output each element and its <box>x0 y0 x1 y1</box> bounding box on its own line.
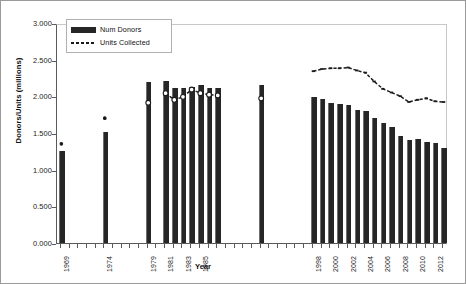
legend-item-num-donors: Num Donors <box>71 23 167 36</box>
y-tick-mark-1.000 <box>52 171 56 172</box>
x-tick-mark-1982 <box>173 244 174 248</box>
bars-layer <box>57 25 446 243</box>
x-tick-label-1981: 1981 <box>167 256 174 272</box>
x-tick-mark-1985 <box>199 244 200 248</box>
bar-1983 <box>181 88 187 243</box>
bar-1984 <box>189 87 195 243</box>
x-tick-label-1979: 1979 <box>150 256 157 272</box>
x-tick-label-2008: 2008 <box>402 256 409 272</box>
x-tick-mark-1998 <box>312 244 313 248</box>
x-tick-mark-2010 <box>416 244 417 248</box>
x-tick-label-2010: 2010 <box>419 256 426 272</box>
legend-label-num-donors: Num Donors <box>100 25 141 34</box>
x-tick-mark-2006 <box>381 244 382 248</box>
bar-1987 <box>215 88 221 243</box>
bar-1982 <box>172 88 178 243</box>
legend-bar-swatch-icon <box>71 27 96 33</box>
y-tick-label-3.000: 3.000 <box>8 20 52 28</box>
bar-1974 <box>103 132 109 243</box>
x-tick-mark-2008 <box>399 244 400 248</box>
bar-2000 <box>328 103 334 243</box>
bar-2004 <box>363 111 369 243</box>
x-tick-label-2000: 2000 <box>332 256 339 272</box>
y-tick-mark-0.500 <box>52 207 56 208</box>
x-tick-label-1974: 1974 <box>106 256 113 272</box>
x-tick-mark-1989 <box>234 244 235 248</box>
x-tick-label-1983: 1983 <box>185 256 192 272</box>
x-tick-mark-2009 <box>407 244 408 248</box>
bar-1998 <box>311 97 317 243</box>
bar-2007 <box>389 127 395 243</box>
x-tick-mark-2005 <box>373 244 374 248</box>
x-tick-mark-1993 <box>268 244 269 248</box>
x-tick-mark-2001 <box>338 244 339 248</box>
bar-2003 <box>355 110 361 243</box>
y-tick-mark-3.000 <box>52 24 56 25</box>
bar-2013 <box>441 148 447 243</box>
chart-legend: Num Donors Units Collected <box>66 19 172 53</box>
bar-2011 <box>424 142 430 243</box>
x-tick-mark-1969 <box>60 244 61 248</box>
x-tick-mark-1979 <box>147 244 148 248</box>
legend-item-units-collected: Units Collected <box>71 36 167 49</box>
x-tick-label-2004: 2004 <box>367 256 374 272</box>
x-tick-mark-1999 <box>321 244 322 248</box>
y-tick-mark-2.500 <box>52 61 56 62</box>
x-tick-mark-1972 <box>86 244 87 248</box>
x-tick-mark-2003 <box>355 244 356 248</box>
bar-1979 <box>146 82 152 243</box>
bar-2010 <box>415 139 421 243</box>
bar-2009 <box>407 140 413 243</box>
y-tick-label-0.000: 0.000 <box>8 240 52 248</box>
bar-2001 <box>337 104 343 243</box>
y-tick-label-0.500: 0.500 <box>8 203 52 211</box>
x-tick-mark-1996 <box>294 244 295 248</box>
x-tick-mark-2012 <box>433 244 434 248</box>
y-tick-mark-1.500 <box>52 134 56 135</box>
bar-1992 <box>259 85 265 243</box>
legend-label-units-collected: Units Collected <box>100 38 150 47</box>
x-tick-mark-1983 <box>181 244 182 248</box>
y-tick-mark-0.000 <box>52 244 56 245</box>
x-tick-mark-2000 <box>329 244 330 248</box>
x-tick-mark-1974 <box>103 244 104 248</box>
x-tick-label-2012: 2012 <box>437 256 444 272</box>
bar-1986 <box>207 88 213 243</box>
x-tick-mark-1991 <box>251 244 252 248</box>
x-tick-mark-1976 <box>121 244 122 248</box>
x-tick-mark-1984 <box>190 244 191 248</box>
x-tick-mark-2011 <box>425 244 426 248</box>
bar-2012 <box>433 143 439 243</box>
bar-2008 <box>398 136 404 243</box>
x-tick-mark-2007 <box>390 244 391 248</box>
x-tick-label-2002: 2002 <box>350 256 357 272</box>
x-axis-tick-labels: 1969197419791981198319851998200020022004… <box>56 249 447 279</box>
x-tick-label-1969: 1969 <box>63 256 70 272</box>
legend-line-swatch-icon <box>71 40 96 46</box>
bar-2005 <box>372 118 378 243</box>
x-tick-label-1998: 1998 <box>315 256 322 272</box>
x-tick-mark-1970 <box>69 244 70 248</box>
y-axis-title: Donors/Units (millions) <box>14 31 23 171</box>
plot-area <box>56 24 447 244</box>
x-tick-label-2006: 2006 <box>384 256 391 272</box>
chart-screenshot: 0.0000.5001.0001.5002.0002.5003.000 Dono… <box>0 0 466 284</box>
x-tick-mark-2013 <box>442 244 443 248</box>
bar-1981 <box>163 81 169 243</box>
x-tick-mark-1971 <box>77 244 78 248</box>
x-tick-mark-1992 <box>260 244 261 248</box>
bar-1969 <box>59 151 65 243</box>
x-tick-mark-1995 <box>286 244 287 248</box>
x-axis-title: Year <box>195 262 211 271</box>
x-tick-mark-1997 <box>303 244 304 248</box>
x-tick-mark-1973 <box>95 244 96 248</box>
x-tick-mark-1981 <box>164 244 165 248</box>
x-tick-mark-2002 <box>347 244 348 248</box>
x-tick-mark-1975 <box>112 244 113 248</box>
bar-2006 <box>381 123 387 243</box>
x-tick-mark-1988 <box>225 244 226 248</box>
x-tick-mark-1977 <box>129 244 130 248</box>
bar-2002 <box>346 105 352 243</box>
y-axis-tick-labels: 0.0000.5001.0001.5002.0002.5003.000 <box>4 24 52 244</box>
x-tick-mark-1987 <box>216 244 217 248</box>
